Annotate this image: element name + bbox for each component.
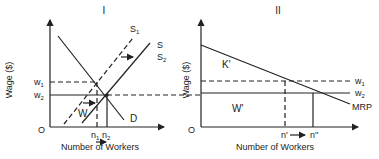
k-prime-label: K' — [222, 59, 231, 70]
n2-label: n2 — [102, 130, 111, 141]
equilibrium-point — [105, 93, 109, 97]
demand-label: D — [130, 113, 137, 124]
panel-2: II Wage ($) O Number of Workers w1 w2 MR… — [181, 5, 372, 152]
y-axis-label: Wage ($) — [4, 62, 14, 99]
w-region-label: W — [78, 108, 88, 119]
s1-label: S1 — [130, 24, 140, 35]
mrp-label: MRP — [352, 102, 372, 112]
panel-2-title: II — [275, 5, 281, 16]
w1-label: w1 — [354, 76, 366, 87]
n-double-prime-label: n'' — [310, 130, 319, 140]
x-axis-label: Number of Workers — [61, 142, 139, 152]
s2-label: S2 — [157, 52, 167, 63]
origin-label: O — [38, 125, 45, 135]
w2-label: w2 — [33, 90, 45, 101]
demand-curve — [58, 36, 124, 120]
w1-label: w1 — [33, 77, 45, 88]
supply-curve-s2 — [82, 43, 150, 123]
labor-market-diagram: I Wage ($) O Number of Workers w1 w2 n1 … — [0, 0, 379, 159]
y-axis-label: Wage ($) — [181, 62, 191, 99]
panel-1-title: I — [103, 5, 106, 16]
w2-label: w2 — [354, 88, 366, 99]
panel-1: I Wage ($) O Number of Workers w1 w2 n1 … — [4, 5, 201, 152]
n-prime-label: n' — [281, 130, 288, 140]
n1-label: n1 — [91, 130, 100, 141]
s-label: S — [157, 40, 163, 50]
mrp-curve — [201, 45, 350, 104]
origin-label: O — [188, 125, 195, 135]
x-axis-label: Number of Workers — [236, 142, 314, 152]
w-prime-label: W' — [232, 103, 243, 114]
supply-curve-s1 — [64, 38, 133, 124]
